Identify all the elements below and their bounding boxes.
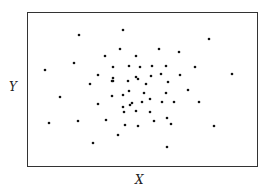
y-axis-label: Y <box>9 80 17 94</box>
data-point <box>158 48 161 51</box>
data-point <box>143 92 146 95</box>
data-point <box>97 103 100 106</box>
data-point <box>59 96 62 99</box>
data-point <box>170 123 173 126</box>
data-point <box>173 101 176 104</box>
data-point <box>92 142 95 145</box>
data-point <box>145 83 148 86</box>
data-point <box>131 102 134 105</box>
x-axis-label: X <box>135 173 144 187</box>
data-point <box>135 110 138 113</box>
data-point <box>165 92 168 95</box>
data-point <box>48 122 51 125</box>
data-point <box>179 74 182 77</box>
data-point <box>149 111 152 114</box>
data-point <box>128 90 131 93</box>
data-point <box>105 119 108 122</box>
data-point <box>89 83 92 86</box>
data-point <box>165 65 168 68</box>
data-point <box>231 73 234 76</box>
data-point <box>149 98 152 101</box>
data-point <box>178 51 181 54</box>
data-point <box>213 125 216 128</box>
data-point <box>124 124 127 127</box>
data-point <box>128 65 131 68</box>
data-point <box>208 38 211 41</box>
data-point <box>153 120 156 123</box>
data-point <box>135 76 138 79</box>
data-point <box>160 73 163 76</box>
data-point <box>112 66 115 69</box>
data-point <box>73 62 76 65</box>
data-point <box>112 80 115 83</box>
data-point <box>117 134 120 137</box>
data-point <box>151 65 154 68</box>
data-point <box>135 55 138 58</box>
data-point <box>141 101 144 104</box>
data-point <box>166 146 169 149</box>
data-point <box>122 29 125 32</box>
data-point <box>119 48 122 51</box>
data-point <box>77 120 80 123</box>
data-point <box>150 75 153 78</box>
data-point <box>44 69 47 72</box>
data-point <box>111 95 114 98</box>
data-point <box>161 101 164 104</box>
scatter-plot <box>0 0 269 192</box>
data-point <box>166 117 169 120</box>
data-point <box>122 94 125 97</box>
data-point <box>123 111 126 114</box>
data-point <box>198 101 201 104</box>
data-point <box>139 66 142 69</box>
data-point <box>97 74 100 77</box>
data-point <box>129 104 132 107</box>
data-point <box>187 89 190 92</box>
data-point <box>167 81 170 84</box>
data-point <box>137 125 140 128</box>
data-point <box>127 80 130 83</box>
data-point <box>122 106 125 109</box>
data-point <box>104 55 107 58</box>
data-point <box>194 66 197 69</box>
data-point <box>112 77 115 80</box>
data-point <box>78 34 81 37</box>
data-point <box>137 78 140 81</box>
